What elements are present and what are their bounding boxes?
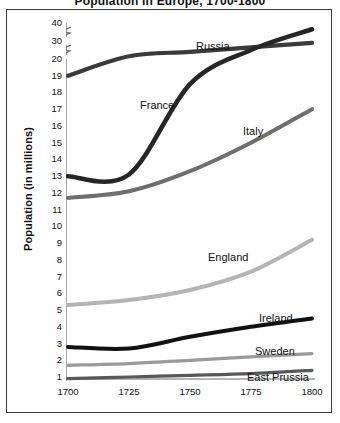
x-tick-1750: 1750	[170, 386, 210, 398]
y-tick-9: 9	[40, 238, 62, 248]
series-line-england	[68, 240, 312, 305]
y-tick-4: 4	[40, 322, 62, 332]
x-tick-1700: 1700	[48, 386, 88, 398]
y-tick-11: 11	[40, 205, 62, 215]
y-tick-1: 1	[40, 372, 62, 382]
x-tick-1800: 1800	[292, 386, 332, 398]
x-tick-1775: 1775	[231, 386, 271, 398]
plot-area	[66, 18, 315, 381]
y-tick-30: 30	[40, 36, 62, 46]
y-tick-2: 2	[40, 355, 62, 365]
chart-figure: Population in Europe, 1700-1800 Populati…	[0, 0, 340, 423]
series-line-italy	[68, 109, 312, 198]
y-tick-6: 6	[40, 288, 62, 298]
y-tick-3: 3	[40, 339, 62, 349]
series-line-russia	[68, 43, 312, 76]
series-label-italy: Italy	[243, 125, 263, 137]
y-tick-15: 15	[40, 138, 62, 148]
series-label-ireland: Ireland	[259, 312, 293, 324]
y-tick-13: 13	[40, 171, 62, 181]
y-tick-7: 7	[40, 272, 62, 282]
y-tick-12: 12	[40, 188, 62, 198]
y-tick-5: 5	[40, 305, 62, 315]
series-label-england: England	[208, 251, 248, 263]
x-tick-1725: 1725	[109, 386, 149, 398]
y-axis-line-group	[66, 23, 315, 381]
y-tick-14: 14	[40, 154, 62, 164]
y-tick-40: 40	[40, 18, 62, 28]
x-axis-tick-labels: 17001725175017751800	[66, 386, 318, 402]
series-label-russia: Russia	[196, 40, 230, 52]
series-label-france: France	[140, 99, 174, 111]
y-tick-8: 8	[40, 255, 62, 265]
y-tick-18: 18	[40, 87, 62, 97]
y-tick-19: 19	[40, 71, 62, 81]
chart-svg	[66, 18, 315, 381]
y-tick-16: 16	[40, 121, 62, 131]
y-tick-20: 20	[40, 54, 62, 64]
series-label-sweden: Sweden	[255, 345, 295, 357]
y-tick-10: 10	[40, 221, 62, 231]
series-label-east-prussia: East Prussia	[247, 371, 309, 383]
series-lines-group	[68, 29, 312, 378]
y-axis-title: Population (in millions)	[22, 89, 34, 289]
y-axis-tick-labels: 40302019181716151413121110987654321	[36, 0, 62, 400]
y-tick-17: 17	[40, 104, 62, 114]
